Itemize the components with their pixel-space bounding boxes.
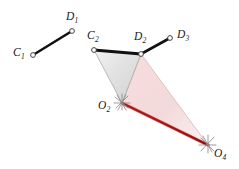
label-d1: D1 <box>66 11 78 23</box>
label-d2: D2 <box>134 31 146 43</box>
linkage-diagram-svg <box>0 0 239 169</box>
joint-marker-c1 <box>31 53 36 58</box>
label-o2: O2 <box>98 100 110 112</box>
label-c2: C2 <box>87 30 98 42</box>
joint-marker-d3 <box>168 36 173 41</box>
rigid-links <box>33 31 170 55</box>
figure-canvas: C1 D1 C2 D2 D3 O2 O4 <box>0 0 239 169</box>
label-d3: D3 <box>177 29 189 41</box>
joint-marker-d2 <box>139 52 144 57</box>
joint-marker-c2 <box>92 48 97 53</box>
label-c1: C1 <box>13 47 24 59</box>
label-o4: O4 <box>214 148 226 160</box>
link-c1-d1 <box>33 31 72 55</box>
coupler-polygons <box>94 50 208 145</box>
joint-marker-d1 <box>70 29 75 34</box>
